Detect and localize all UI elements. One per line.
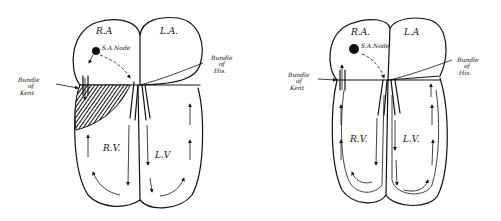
heart-diagram-reentry: R.A. L.A S.A.Node R.V. L.V. Bundle of Ke… xyxy=(287,18,479,205)
sa-node-dot xyxy=(349,44,359,54)
label-bundle-of-his: Bundle of His. xyxy=(210,54,233,74)
label-sa-node: S.A.Node xyxy=(361,42,390,49)
label-left-atrium: L.A. xyxy=(159,26,178,36)
heart-diagram-wpw: R.A L.A. S.A.Node R.V. L.V Bundle of Ken… xyxy=(17,18,233,208)
heart-conduction-figure: R.A L.A. S.A.Node R.V. L.V Bundle of Ken… xyxy=(0,0,501,221)
label-sa-node: S.A.Node xyxy=(102,44,131,51)
left-ventricle-outline xyxy=(140,88,203,208)
svg-text:His.: His. xyxy=(213,67,226,74)
sa-node-dot xyxy=(92,47,100,55)
label-left-ventricle: L.V xyxy=(154,150,172,160)
label-left-atrium: L.A xyxy=(403,27,420,37)
label-bundle-of-kent: Bundle of Kent xyxy=(287,71,310,91)
label-right-ventricle: R.V. xyxy=(102,143,121,153)
svg-text:His.: His. xyxy=(458,69,471,76)
label-right-atrium: R.A. xyxy=(350,27,370,37)
label-right-ventricle: R.V. xyxy=(349,134,368,144)
label-bundle-of-kent: Bundle of Kent xyxy=(17,76,40,96)
label-bundle-of-his: Bundle of His. xyxy=(456,56,479,76)
label-left-ventricle: L.V. xyxy=(402,134,420,144)
label-right-atrium: R.A xyxy=(95,26,113,36)
svg-text:Kent: Kent xyxy=(289,84,305,91)
svg-text:Kent: Kent xyxy=(19,89,35,96)
